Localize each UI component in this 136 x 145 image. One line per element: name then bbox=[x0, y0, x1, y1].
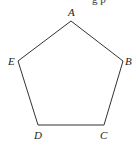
cut-off-text: g p bbox=[92, 0, 106, 5]
vertex-label-e: E bbox=[7, 55, 15, 67]
vertex-label-a: A bbox=[67, 6, 75, 18]
vertex-label-b: B bbox=[125, 55, 132, 67]
pentagon-diagram: g p A B C D E bbox=[0, 0, 136, 145]
vertex-label-d: D bbox=[33, 129, 42, 141]
vertex-label-c: C bbox=[100, 129, 108, 141]
pentagon-shape bbox=[18, 21, 123, 125]
